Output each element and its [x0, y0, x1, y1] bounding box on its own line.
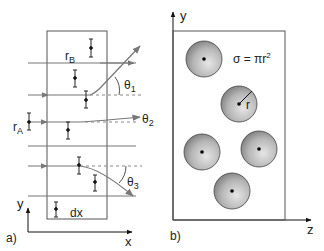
slab-box: [47, 31, 107, 219]
scatterer: [89, 39, 93, 57]
axis-label-y-b: y: [180, 8, 187, 23]
label-theta-1: θ1: [124, 78, 136, 94]
scatterer: [54, 202, 58, 217]
scatterer: [66, 122, 70, 139]
panel-a: rB rA θ1 θ2 θ3 dx y x a): [6, 31, 154, 249]
sphere: [241, 131, 277, 167]
axis-label-x-a: x: [125, 234, 132, 249]
label-r-b: rB: [65, 49, 75, 65]
scatterer: [27, 113, 31, 130]
label-dx: dx: [70, 206, 83, 220]
scattering-diagram: rB rA θ1 θ2 θ3 dx y x a) r σ = πr2 y z b…: [0, 0, 324, 251]
scatterer-markers: [27, 39, 97, 217]
sphere: [186, 41, 222, 77]
panel-label-b: b): [170, 229, 181, 243]
panel-b: r σ = πr2 y z b): [170, 8, 314, 243]
scatterer: [84, 91, 88, 108]
sphere: [214, 173, 250, 209]
scatterer: [73, 70, 77, 87]
label-r-a: rA: [13, 120, 23, 136]
ray-2: [28, 117, 140, 122]
label-theta-3: θ3: [127, 175, 139, 191]
sphere-with-radius: [221, 86, 257, 122]
axis-label-z-b: z: [307, 222, 314, 237]
scatterer: [93, 175, 97, 191]
label-radius-r: r: [246, 98, 250, 112]
label-theta-2: θ2: [142, 112, 154, 128]
cross-section-formula: σ = πr2: [233, 51, 271, 66]
axis-label-y-a: y: [17, 196, 24, 211]
panel-label-a: a): [6, 231, 17, 245]
sphere: [184, 134, 220, 170]
